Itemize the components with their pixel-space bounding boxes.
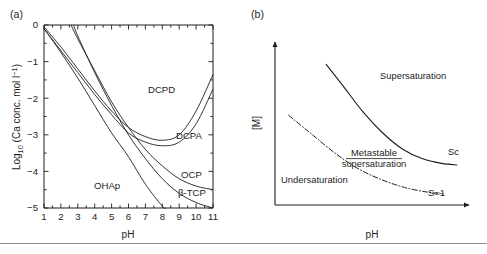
panel-a-solubility-isotherms: (a) 1234567891011 0−1−2−3−4−5 [0,0,243,254]
y-tick-label: −4 [27,166,39,177]
figure-bottom-rule [0,243,487,244]
y-title-main: Log [11,153,22,170]
y-tick-label: −5 [27,202,38,213]
curve-label-dcpa: DCPA [176,130,203,141]
y-title-mid: (Ca conc. mol l [11,76,22,145]
y-tick-label: −2 [27,93,38,104]
curve-label-s-equals-1: S=1 [428,187,445,198]
panel-a-curves [44,25,213,208]
y-title-sub: 10 [16,145,25,153]
panel-a-tag: (a) [10,8,23,20]
svg-text:Log10 (Ca conc. mol l−1): Log10 (Ca conc. mol l−1) [10,64,25,170]
panel-b-tag: (b) [251,8,264,20]
panel-a-y-axis-title: Log10 (Ca conc. mol l−1) [10,64,25,170]
region-label-metastable-line2: supersaturation [342,158,407,169]
panel-b-y-axis-title-text: [M] [251,116,262,130]
panel-a-x-tick-labels: 1234567891011 [41,211,218,222]
curve-dcpd [44,27,213,140]
y-tick-label: −3 [27,129,38,140]
panel-a-ticks [44,25,213,208]
x-tick-label: 5 [109,211,114,222]
figure-container: (a) 1234567891011 0−1−2−3−4−5 [0,0,487,254]
panel-a-plot: 1234567891011 0−1−2−3−4−5 DCPD DCPA OCP … [0,0,243,254]
y-tick-label: −1 [27,56,38,67]
x-tick-label: 3 [75,211,80,222]
x-tick-label: 1 [41,211,46,222]
curve-label-sc: Sc [448,146,459,157]
region-label-metastable-line1: Metastable [351,147,397,158]
x-tick-label: 4 [92,211,98,222]
region-label-supersaturation: Supersaturation [380,70,446,81]
panel-b-plot: Supersaturation Metastable supersaturati… [243,0,487,254]
region-label-undersaturation: Undersaturation [281,174,348,185]
panel-b-y-axis-title: [M] [251,116,262,130]
y-title-close: ) [11,64,22,67]
panel-a-axes [44,25,213,208]
curve-label-ocp: OCP [181,169,202,180]
panel-a-x-axis-title: pH [122,229,135,240]
panel-b-x-axis-title: pH [366,229,379,240]
x-tick-label: 11 [208,211,218,222]
x-tick-label: 10 [191,211,202,222]
x-tick-label: 2 [58,211,63,222]
y-title-sup: −1 [10,67,19,75]
x-tick-label: 8 [160,211,165,222]
x-tick-label: 6 [126,211,131,222]
curve-ocp [71,25,213,190]
panel-b-supersaturation-diagram: (b) Supersaturation Metastable supersatu… [243,0,487,254]
x-tick-label: 9 [177,211,182,222]
y-tick-label: 0 [33,19,38,30]
curve-label-dcpd: DCPD [148,84,175,95]
panel-a-y-tick-labels: 0−1−2−3−4−5 [27,19,39,213]
curve-label-beta-tcp: β-TCP [178,187,206,198]
x-tick-label: 7 [143,211,148,222]
curve-label-ohap: OHAp [94,180,120,191]
